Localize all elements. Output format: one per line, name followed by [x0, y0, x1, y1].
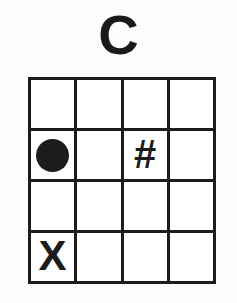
chord-grid-cell[interactable]: [168, 130, 214, 181]
empty-cell-mark: [170, 233, 213, 281]
empty-cell-mark: [124, 80, 167, 128]
chord-grid-cell[interactable]: [168, 79, 214, 130]
chord-grid-cell[interactable]: [76, 232, 122, 283]
chord-grid-cell[interactable]: [168, 181, 214, 232]
chord-grid-row: #: [30, 130, 215, 181]
diagram-page: C #X: [0, 0, 237, 303]
chord-grid-row: [30, 181, 215, 232]
empty-cell-mark: [124, 182, 167, 230]
empty-cell-mark: [31, 182, 74, 230]
chord-grid-cell[interactable]: [122, 232, 168, 283]
chord-grid-cell[interactable]: [76, 130, 122, 181]
chord-grid-cell[interactable]: [30, 130, 76, 181]
chord-grid-body: #X: [30, 79, 215, 283]
diagram-title: C: [0, 4, 237, 66]
empty-cell-mark: [77, 80, 120, 128]
chord-grid-row: X: [30, 232, 215, 283]
empty-cell-mark: [31, 80, 74, 128]
chord-grid-container: #X: [28, 77, 216, 284]
chord-grid-cell[interactable]: [168, 232, 214, 283]
empty-cell-mark: [170, 131, 213, 179]
filled-dot-icon: [31, 131, 74, 179]
chord-grid-cell[interactable]: X: [30, 232, 76, 283]
chord-grid-cell[interactable]: [122, 181, 168, 232]
sharp-icon: #: [124, 130, 167, 178]
empty-cell-mark: [124, 233, 167, 281]
empty-cell-mark: [77, 182, 120, 230]
empty-cell-mark: [170, 182, 213, 230]
chord-grid-cell[interactable]: #: [122, 130, 168, 181]
cross-icon: X: [31, 232, 74, 280]
chord-grid-row: [30, 79, 215, 130]
chord-grid: #X: [28, 77, 216, 284]
empty-cell-mark: [170, 80, 213, 128]
chord-grid-cell[interactable]: [76, 79, 122, 130]
chord-grid-cell[interactable]: [122, 79, 168, 130]
chord-grid-cell[interactable]: [76, 181, 122, 232]
empty-cell-mark: [77, 233, 120, 281]
empty-cell-mark: [77, 131, 120, 179]
chord-grid-cell[interactable]: [30, 79, 76, 130]
chord-grid-cell[interactable]: [30, 181, 76, 232]
